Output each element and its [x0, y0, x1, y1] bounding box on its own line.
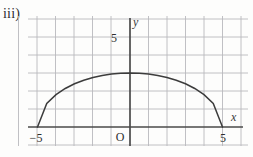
- grid-horizontal-lines: [28, 19, 248, 145]
- origin-label: O: [116, 130, 125, 144]
- x-axis-label: x: [230, 110, 237, 124]
- graph-plot: y x 5 −5 5 O: [0, 0, 253, 157]
- x-tick-label-5: 5: [220, 131, 226, 145]
- y-tick-label-5: 5: [111, 31, 117, 45]
- figure-container: iii): [0, 0, 253, 157]
- y-axis-label: y: [132, 15, 139, 29]
- x-tick-label-negative-5: −5: [30, 131, 43, 145]
